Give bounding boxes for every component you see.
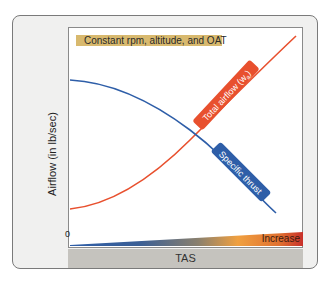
- total-airflow-tag: Total airflow (wa): [192, 60, 260, 131]
- specific-thrust-curve: [70, 80, 276, 213]
- curves-layer: Total airflow (wa) Specific thrust: [0, 0, 330, 291]
- total-airflow-curve: [70, 36, 296, 209]
- svg-text:Total airflow (wa): Total airflow (wa): [201, 68, 254, 124]
- specific-thrust-tag: Specific thrust: [211, 142, 272, 203]
- x-axis-tas-bar: TAS: [68, 249, 303, 268]
- x-increase-label: Increase: [262, 233, 300, 244]
- svg-text:Specific thrust: Specific thrust: [217, 149, 264, 196]
